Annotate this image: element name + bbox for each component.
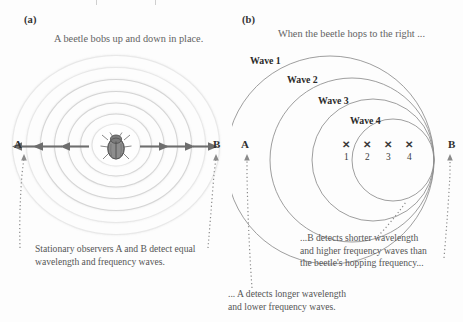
observer-b-label: B (213, 138, 220, 150)
panel-b-caption-right-line-1: ...B detects shorter wavelength (300, 232, 460, 245)
edge-tick-left (96, 0, 97, 5)
panel-a-caption-line-2: wavelength and frequency waves. (35, 256, 235, 269)
panel-b-caption-right-line-3: the beetle's hopping frequency... (300, 257, 460, 270)
panel-a-caption: Stationary observers A and B detect equa… (35, 243, 235, 268)
panel-b-caption-left-line-2: and lower frequency waves. (228, 301, 398, 314)
position-number-2: 2 (365, 152, 370, 162)
edge-tick-right (155, 0, 156, 5)
panel-b-caption-left: ... A detects longer wavelength and lowe… (228, 288, 398, 313)
doppler-effect-figure: (a) A beetle bobs up and down in place. (0, 0, 463, 322)
panel-b-caption-left-line-1: ... A detects longer wavelength (228, 288, 398, 301)
position-number-4: 4 (407, 152, 412, 162)
observer-a-leader-b (238, 152, 298, 296)
observer-a-leader (12, 152, 72, 256)
wave-label-4: Wave 4 (350, 115, 381, 126)
wave-label-1: Wave 1 (250, 55, 281, 66)
panel-a-header-note: A beetle bobs up and down in place. (54, 33, 203, 44)
position-number-1: 1 (344, 152, 349, 162)
panel-b-caption-right: ...B detects shorter wavelength and high… (300, 232, 460, 270)
wave-label-2: Wave 2 (287, 74, 318, 85)
position-marker-4: ✕ (405, 139, 413, 150)
panel-a: (a) A beetle bobs up and down in place. (0, 0, 232, 322)
arrow-left-1 (33, 142, 62, 151)
arrow-right-2 (166, 142, 195, 151)
panel-b-label: (b) (242, 14, 255, 25)
arrow-left-2 (60, 142, 89, 151)
panel-b: (b) When the beetle hops to the right ..… (232, 0, 463, 322)
panel-a-label: (a) (24, 14, 37, 25)
position-marker-2: ✕ (363, 139, 371, 150)
panel-b-caption-right-line-2: and higher frequency waves than (300, 245, 460, 258)
beetle-icon (99, 132, 133, 162)
observer-a-label: A (14, 138, 22, 150)
position-marker-3: ✕ (384, 139, 392, 150)
observer-a-label-b: A (241, 138, 249, 150)
arrow-right-1 (140, 142, 169, 151)
panel-a-caption-line-1: Stationary observers A and B detect equa… (35, 243, 235, 256)
wave-label-3: Wave 3 (318, 95, 349, 106)
position-number-3: 3 (386, 152, 391, 162)
panel-b-header-note: When the beetle hops to the right ... (278, 28, 425, 39)
observer-b-label-b: B (448, 138, 455, 150)
position-marker-1: ✕ (342, 139, 350, 150)
